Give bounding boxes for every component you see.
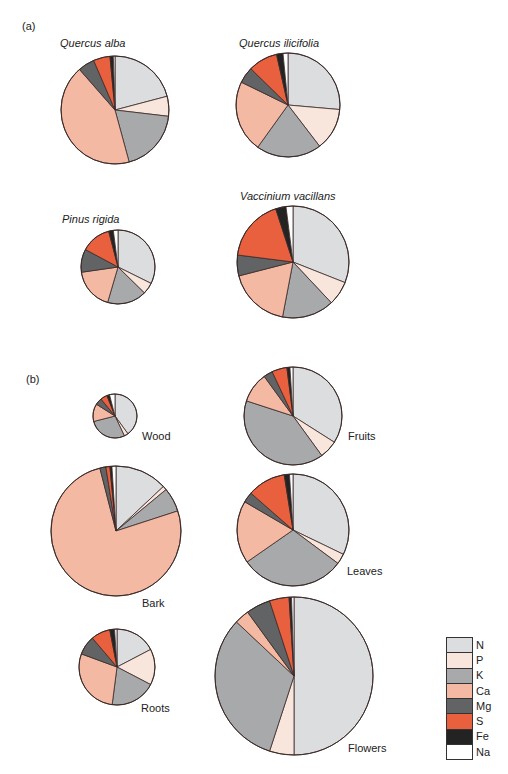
pie-leaves: [237, 474, 349, 586]
pie-label: Vaccinium vacillans: [240, 190, 336, 202]
legend-item-k: K: [446, 668, 491, 683]
legend-item-mg: Mg: [446, 698, 491, 713]
panel-label: (a): [22, 20, 35, 32]
legend-swatch: [446, 713, 473, 728]
legend-item-ca: Ca: [446, 683, 491, 698]
legend-item-na: Na: [446, 744, 491, 759]
legend-item-n: N: [446, 637, 491, 652]
legend-item-s: S: [446, 713, 491, 728]
pie-label: Leaves: [347, 565, 382, 577]
pie-quercus-ilicifolia: [236, 53, 340, 157]
legend-label: P: [476, 654, 483, 666]
legend-label: N: [476, 639, 484, 651]
legend-label: Na: [476, 746, 490, 758]
pie-label: Roots: [141, 702, 170, 714]
legend-swatch: [446, 698, 473, 713]
legend-label: S: [476, 715, 483, 727]
pie-pinus-rigida: [81, 230, 155, 304]
legend-label: K: [476, 669, 483, 681]
legend-swatch: [446, 668, 473, 683]
legend-label: Ca: [476, 685, 490, 697]
slice-n: [294, 597, 373, 755]
legend-swatch: [446, 683, 473, 698]
pie-roots: [79, 629, 155, 705]
legend-item-p: P: [446, 652, 491, 667]
pie-wood: [93, 394, 137, 438]
pie-label: Wood: [142, 430, 171, 442]
pie-flowers: [215, 597, 373, 755]
legend-label: Fe: [476, 730, 489, 742]
pie-label: Quercus alba: [60, 37, 125, 49]
slice-n: [288, 53, 340, 110]
legend-label: Mg: [476, 700, 491, 712]
pie-label: Fruits: [348, 430, 376, 442]
pie-label: Flowers: [348, 742, 387, 754]
pie-chart-area: [0, 0, 508, 774]
pie-vaccinium-vacillans: [237, 206, 349, 318]
pie-quercus-alba: [61, 56, 169, 164]
legend-swatch: [446, 637, 473, 652]
legend: NPKCaMgSFeNa: [446, 637, 491, 759]
legend-swatch: [446, 744, 473, 760]
pie-label: Pinus rigida: [62, 213, 119, 225]
pie-bark: [51, 466, 181, 596]
legend-item-fe: Fe: [446, 729, 491, 744]
pie-label: Quercus ilicifolia: [239, 37, 319, 49]
legend-swatch: [446, 729, 473, 744]
pie-label: Bark: [142, 597, 165, 609]
pie-fruits: [244, 367, 342, 465]
panel-label: (b): [26, 373, 39, 385]
legend-swatch: [446, 652, 473, 667]
